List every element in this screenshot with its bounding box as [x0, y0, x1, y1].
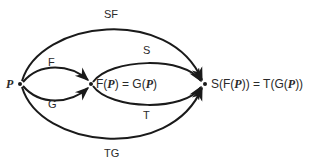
node-fp-text-3: ) = G( — [115, 77, 146, 91]
node-sfp-dot — [203, 82, 207, 86]
node-fp-label: F(P) = G(P) — [96, 78, 157, 90]
edge-label-sf: SF — [104, 9, 118, 20]
edge-tg — [22, 87, 202, 139]
edge-label-tg: TG — [104, 148, 119, 159]
node-sfp-text-5: )) — [295, 77, 303, 91]
edge-label-g: G — [48, 99, 57, 110]
node-sfp-text-3: )) = T(G( — [242, 77, 288, 91]
node-fp-text-2: P — [107, 77, 114, 91]
node-fp-dot — [89, 82, 93, 86]
node-sfp-text-1: S(F( — [211, 77, 234, 91]
node-fp-text-4: P — [146, 77, 153, 91]
edge-f — [23, 68, 88, 83]
node-sfp-text-2: P — [234, 77, 241, 91]
node-sfp-label: S(F(P)) = T(G(P)) — [211, 78, 303, 90]
commutative-diagram: P F(P) = G(P) S(F(P)) = T(G(P)) SF F S G… — [0, 0, 310, 167]
edge-label-f: F — [48, 57, 55, 68]
edge-label-s: S — [143, 45, 150, 56]
node-fp-text-1: F( — [96, 77, 107, 91]
node-fp-text-5: ) — [153, 77, 157, 91]
node-p-dot — [18, 82, 22, 86]
node-p-label: P — [6, 78, 13, 90]
edge-label-t: T — [143, 110, 150, 121]
